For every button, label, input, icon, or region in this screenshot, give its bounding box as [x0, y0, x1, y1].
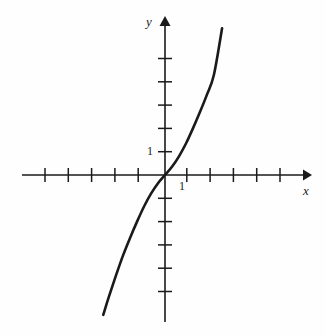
function-curve — [103, 28, 222, 315]
x-axis-label: x — [303, 184, 309, 197]
coordinate-plot — [0, 0, 326, 336]
x-axis-arrowhead — [303, 170, 312, 181]
x-axis — [22, 168, 312, 182]
graph-figure: y x 1 1 — [0, 0, 326, 336]
y-tick-label-one: 1 — [147, 145, 153, 157]
y-axis-label: y — [146, 15, 152, 28]
x-tick-label-one: 1 — [179, 180, 185, 192]
y-axis-arrowhead — [160, 16, 171, 26]
